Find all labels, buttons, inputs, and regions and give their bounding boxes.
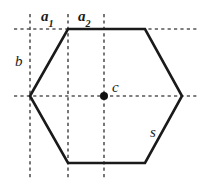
- figure-canvas: [0, 0, 206, 191]
- center-point-dot: [100, 92, 108, 100]
- label-a1: a1: [41, 9, 54, 27]
- label-a1-subscript: 1: [49, 18, 54, 29]
- label-s: s: [150, 125, 156, 140]
- vertical-guide-lines: [30, 14, 104, 180]
- hexagon-figure: a1 a2 b c s: [0, 0, 206, 191]
- horizontal-guide-lines: [14, 29, 198, 96]
- label-a2: a2: [78, 9, 91, 27]
- label-c: c: [112, 80, 119, 95]
- label-a2-base: a: [78, 8, 86, 24]
- label-a1-base: a: [41, 8, 49, 24]
- label-a2-subscript: 2: [86, 18, 91, 29]
- label-b: b: [15, 54, 23, 69]
